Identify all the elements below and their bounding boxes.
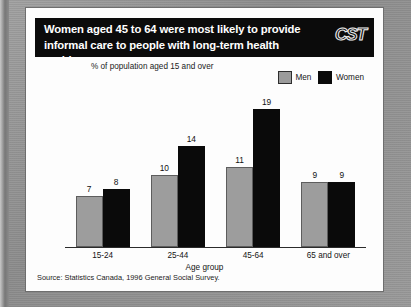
legend-label-women: Women: [336, 73, 364, 82]
bar-group: 11 19 45-64: [216, 102, 291, 247]
legend-item-women: Women: [318, 71, 364, 84]
source-note: Source: Statistics Canada, 1996 General …: [37, 273, 220, 282]
bar-group: 10 14 25-44: [140, 102, 215, 247]
page-title: Women aged 45 to 64 were most likely to …: [44, 22, 306, 57]
bar-value-label: 11: [226, 155, 253, 165]
legend-swatch-men: [278, 71, 292, 84]
bar-value-label: 10: [151, 163, 178, 173]
bar-group: 9 9 65 and over: [291, 102, 366, 247]
legend-item-men: Men: [278, 71, 311, 84]
legend-swatch-women: [318, 71, 332, 84]
bar-women: 8: [103, 189, 130, 247]
bar-groups: 7 8 15-24 10: [65, 102, 366, 247]
bar-wrap-women: 8: [103, 102, 130, 247]
bar-men: 9: [301, 182, 328, 247]
bar-chart: % of population aged 15 and over Men Wom…: [35, 60, 374, 265]
y-axis-label: % of population aged 15 and over: [91, 62, 213, 71]
x-tick-label: 65 and over: [279, 251, 378, 260]
title-banner: Women aged 45 to 64 were most likely to …: [35, 18, 374, 57]
bar-women: 9: [328, 182, 355, 247]
legend-label-men: Men: [296, 73, 312, 82]
x-axis-line: [65, 247, 366, 248]
bar-wrap-men: 9: [301, 102, 328, 247]
chart-card: Women aged 45 to 64 were most likely to …: [26, 8, 383, 291]
bar-women: 19: [253, 109, 280, 247]
bar-value-label: 7: [76, 184, 103, 194]
bar-value-label: 19: [253, 97, 280, 107]
bar-wrap-women: 19: [253, 102, 280, 247]
bar-men: 11: [226, 167, 253, 247]
x-axis-title: Age group: [35, 263, 374, 272]
bar-wrap-women: 14: [178, 102, 205, 247]
bar-wrap-women: 9: [328, 102, 355, 247]
chart-legend: Men Women: [278, 71, 364, 84]
bar-men: 7: [76, 196, 103, 247]
bar-group: 7 8 15-24: [65, 102, 140, 247]
bar-wrap-men: 11: [226, 102, 253, 247]
bar-wrap-men: 7: [76, 102, 103, 247]
bar-value-label: 8: [103, 177, 130, 187]
bar-men: 10: [151, 175, 178, 248]
bar-wrap-men: 10: [151, 102, 178, 247]
bar-women: 14: [178, 146, 205, 248]
bar-value-label: 9: [328, 170, 355, 180]
plot-area: 7 8 15-24 10: [65, 102, 366, 248]
cst-logo: CST: [335, 25, 366, 45]
bar-value-label: 14: [178, 134, 205, 144]
bar-value-label: 9: [301, 170, 328, 180]
